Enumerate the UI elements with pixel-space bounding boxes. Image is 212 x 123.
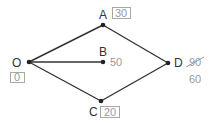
edge-c-d xyxy=(101,63,168,101)
edge-o-c xyxy=(29,62,101,101)
node-d xyxy=(166,61,171,66)
node-b-value: 50 xyxy=(110,56,122,68)
node-c xyxy=(99,99,104,104)
node-c-label: C xyxy=(89,105,98,119)
edge-o-a xyxy=(29,25,103,62)
node-o-label: O xyxy=(12,56,21,70)
node-d-label: D xyxy=(174,56,183,70)
node-c-value: 20 xyxy=(104,106,116,118)
graph-diagram: O 0 A 30 B 50 C 20 D 90 60 xyxy=(0,0,212,123)
node-o-value: 0 xyxy=(14,71,20,83)
node-b-label: B xyxy=(99,45,107,59)
node-o xyxy=(27,60,32,65)
node-a-value: 30 xyxy=(115,7,127,19)
node-a-label: A xyxy=(99,8,107,22)
node-d-value: 60 xyxy=(189,73,201,85)
node-a xyxy=(101,23,106,28)
node-b xyxy=(101,60,106,65)
